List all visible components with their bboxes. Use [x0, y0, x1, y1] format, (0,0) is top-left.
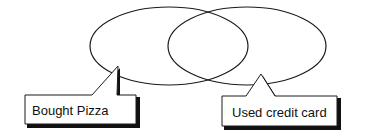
set-ellipse-used-credit-card	[168, 7, 326, 85]
venn-diagram: Bought Pizza Used credit card	[0, 0, 370, 138]
label-bought-pizza: Bought Pizza	[32, 103, 109, 118]
label-used-credit-card: Used credit card	[232, 105, 327, 120]
